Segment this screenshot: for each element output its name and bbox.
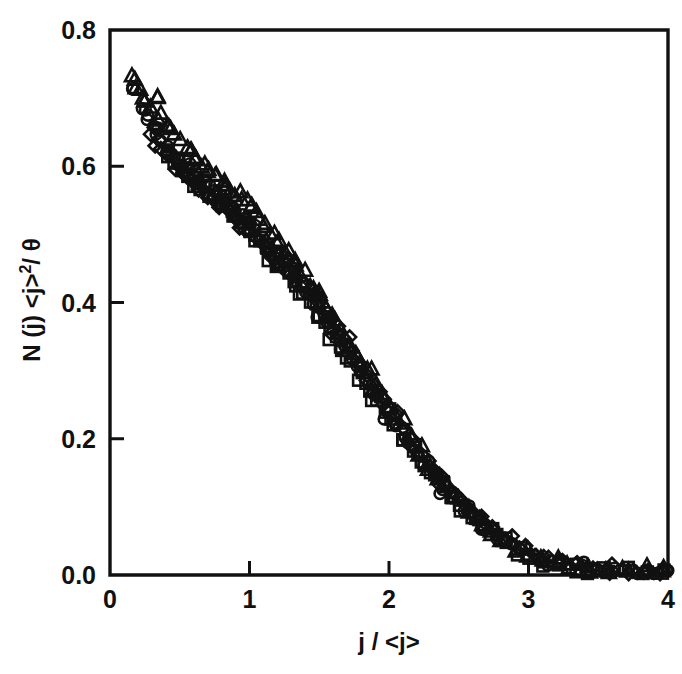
- y-tick-label: 0.0: [61, 561, 96, 589]
- x-axis-tickmarks: [250, 561, 529, 575]
- y-axis-label: N (j) <j>2/ θ: [17, 238, 45, 361]
- data-series-triangles: [125, 68, 670, 578]
- data-series-circles: [127, 83, 673, 579]
- x-tick-label: 0: [103, 585, 117, 613]
- data-point-group: [125, 68, 673, 580]
- data-series-squares: [162, 145, 669, 579]
- x-axis-tick-labels: 01234: [103, 585, 675, 613]
- y-axis-label-exponent: 2: [17, 265, 34, 274]
- plot-frame: [110, 30, 668, 575]
- x-axis-label: j / <j>: [357, 628, 419, 655]
- y-axis-label-tail: / θ: [18, 238, 45, 264]
- y-tick-label: 0.4: [61, 289, 96, 317]
- y-axis-label-main: N (j) <j>: [18, 274, 45, 362]
- x-tick-label: 1: [243, 585, 257, 613]
- scatter-plot: 0.00.20.40.60.8 01234 j / <j> N (j) <j>2…: [0, 0, 682, 674]
- x-tick-label: 3: [522, 585, 536, 613]
- y-tick-label: 0.2: [61, 425, 96, 453]
- y-axis-tick-labels: 0.00.20.40.60.8: [61, 16, 96, 589]
- y-axis-tickmarks: [110, 166, 124, 439]
- figure-container: 0.00.20.40.60.8 01234 j / <j> N (j) <j>2…: [0, 0, 682, 674]
- svg-text:N (j) <j>2/ θ: N (j) <j>2/ θ: [17, 238, 45, 361]
- y-tick-label: 0.8: [61, 16, 96, 44]
- x-tick-label: 4: [661, 585, 675, 613]
- y-tick-label: 0.6: [61, 152, 96, 180]
- x-tick-label: 2: [382, 585, 396, 613]
